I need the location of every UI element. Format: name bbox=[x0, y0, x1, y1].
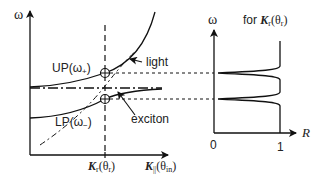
kr-axis-label: Kr(θr) bbox=[88, 160, 115, 174]
lp-crossing-marker bbox=[101, 95, 110, 104]
up-crossing-marker bbox=[101, 69, 110, 78]
right-panel bbox=[214, 30, 296, 133]
r-axis-label: R bbox=[302, 126, 310, 139]
right-panel-title: for Kr(θr) bbox=[243, 14, 287, 28]
kpar-axis-label: K||(θin) bbox=[145, 160, 176, 174]
lp-label: LP(ω−) bbox=[55, 116, 92, 130]
left-panel bbox=[30, 11, 214, 158]
exciton-label: exciton bbox=[131, 113, 169, 125]
r-tick-0: 0 bbox=[210, 139, 217, 151]
right-omega-label: ω bbox=[208, 13, 217, 27]
up-label: UP(ω+) bbox=[52, 62, 91, 76]
reflectance-curve bbox=[218, 41, 280, 133]
light-label: light bbox=[146, 56, 168, 68]
left-omega-label: ω bbox=[14, 8, 23, 22]
upper-polariton-curve bbox=[30, 12, 155, 87]
light-pointer-arrow bbox=[130, 59, 142, 62]
r-tick-1: 1 bbox=[277, 141, 284, 153]
